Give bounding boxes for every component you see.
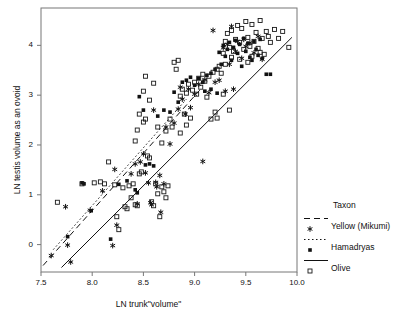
data-point-open-square — [172, 60, 176, 64]
data-point-filled-square — [240, 64, 244, 68]
data-point-filled-square — [197, 76, 201, 80]
legend-entry[interactable]: Hamadryas — [303, 238, 401, 259]
y-tick-label: 3 — [13, 90, 33, 99]
data-point-asterisk — [63, 204, 68, 210]
data-point-open-square — [127, 184, 131, 188]
data-point-open-square — [102, 182, 106, 186]
y-tick-label: 0 — [13, 240, 33, 249]
data-point-open-square — [133, 139, 137, 143]
data-point-filled-square — [66, 235, 70, 239]
data-point-filled-square — [217, 51, 221, 55]
data-point-asterisk — [129, 171, 134, 177]
data-point-filled-square — [144, 163, 148, 167]
data-point-asterisk — [217, 77, 222, 83]
data-point-open-square — [117, 228, 121, 232]
data-point-open-square — [223, 62, 227, 66]
data-point-open-square — [55, 200, 59, 204]
data-point-asterisk — [114, 222, 119, 228]
y-tick-label: 2 — [13, 140, 33, 149]
data-point-filled-square — [264, 72, 268, 76]
data-point-filled-square — [142, 108, 146, 112]
data-point-open-square — [143, 74, 147, 78]
data-point-filled-square — [172, 90, 176, 94]
data-point-filled-square — [176, 100, 180, 104]
data-point-open-square — [92, 181, 96, 185]
data-point-filled-square — [269, 72, 273, 76]
data-point-filled-square — [209, 87, 213, 91]
data-point-open-square — [160, 141, 164, 145]
data-point-open-square — [107, 160, 111, 164]
data-point-open-square — [266, 34, 270, 38]
data-point-filled-square — [203, 89, 207, 93]
data-point-open-square — [170, 125, 174, 129]
data-point-asterisk — [158, 209, 163, 215]
data-point-asterisk — [168, 141, 173, 147]
data-point-open-square — [264, 29, 268, 33]
plot-frame — [41, 8, 297, 272]
data-point-open-square — [178, 131, 182, 135]
legend-title: Taxon — [333, 200, 356, 210]
data-point-filled-square — [138, 95, 142, 99]
regression-lines — [43, 37, 292, 267]
data-point-open-square — [272, 27, 276, 31]
data-point-open-square — [137, 112, 141, 116]
data-point-filled-square — [252, 40, 256, 44]
data-point-open-square — [258, 18, 262, 22]
data-point-open-square — [254, 30, 258, 34]
data-point-filled-square — [181, 80, 185, 84]
data-point-open-square — [236, 23, 240, 27]
data-point-filled-square — [125, 179, 129, 183]
data-point-open-square — [166, 184, 170, 188]
scatter-plot-figure: LN trunk"volume" LN testis volume as an … — [0, 0, 401, 323]
data-point-asterisk — [188, 105, 193, 111]
y-axis-ticks — [37, 45, 41, 244]
data-point-open-square — [189, 116, 193, 120]
data-point-filled-square — [228, 41, 232, 45]
data-point-filled-square — [162, 108, 166, 112]
data-point-open-square — [184, 123, 188, 127]
data-point-open-square — [287, 45, 291, 49]
legend-entry[interactable]: Olive — [303, 259, 401, 280]
data-point-open-square — [262, 52, 266, 56]
y-tick-label: 1 — [13, 190, 33, 199]
legend-key-asterisk — [303, 217, 329, 238]
data-point-open-square — [246, 35, 250, 39]
data-point-open-square — [227, 108, 231, 112]
data-points — [49, 18, 291, 264]
data-point-asterisk — [151, 107, 156, 113]
data-point-open-square — [176, 58, 180, 62]
data-point-open-square — [277, 36, 281, 40]
data-point-filled-square — [89, 209, 93, 213]
y-tick-label: 4 — [13, 40, 33, 49]
data-point-filled-square — [242, 37, 246, 41]
data-point-open-square — [115, 215, 119, 219]
data-point-filled-square — [260, 57, 264, 61]
legend-marker-open-square — [308, 269, 312, 273]
legend-entry[interactable]: Yellow (Mikumi) — [303, 217, 401, 238]
data-point-asterisk — [231, 86, 236, 92]
data-point-open-square — [250, 22, 254, 26]
data-point-filled-square — [189, 75, 193, 79]
legend-label: Hamadryas — [331, 242, 374, 252]
data-point-filled-square — [148, 162, 152, 166]
x-axis-ticks — [41, 272, 297, 276]
data-point-filled-square — [117, 183, 121, 187]
data-point-asterisk — [138, 159, 143, 165]
data-point-open-square — [225, 31, 229, 35]
data-point-open-square — [184, 91, 188, 95]
legend-label: Yellow (Mikumi) — [331, 221, 390, 231]
data-point-open-square — [162, 190, 166, 194]
data-point-open-square — [141, 89, 145, 93]
data-point-filled-square — [250, 59, 254, 63]
x-tick-label: 8.5 — [128, 278, 158, 287]
legend-title-row: Taxon — [303, 196, 401, 217]
legend-key-filled-square — [303, 238, 329, 259]
data-point-open-square — [131, 182, 135, 186]
data-point-filled-square — [168, 110, 172, 114]
legend-marker-asterisk — [308, 226, 313, 232]
data-point-open-square — [215, 116, 219, 120]
legend-key-open-square — [303, 259, 329, 280]
data-point-open-square — [156, 192, 160, 196]
data-point-asterisk — [157, 173, 162, 179]
legend-marker-filled-square — [308, 248, 312, 252]
